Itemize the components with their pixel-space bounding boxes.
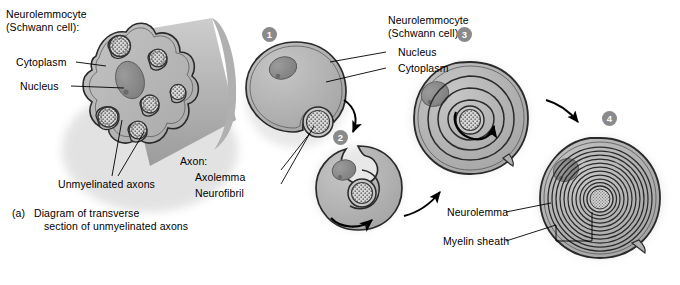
step-2-cell (314, 146, 402, 230)
axon-step-1 (303, 107, 333, 137)
step-badge-1: 1 (262, 27, 277, 42)
myelination-figure: Neurolemmocyte (Schwann cell): Cytoplasm… (0, 0, 680, 285)
step-badge-2: 2 (333, 130, 348, 145)
axon-step-3 (456, 106, 484, 134)
step1-cytoplasm-label: Cytoplasm (398, 62, 449, 75)
step1-cell-title-line2: (Schwann cell): (388, 27, 461, 40)
neurofibril-label: Neurofibril (195, 187, 244, 200)
step-3-cell (412, 62, 528, 174)
panel-a-unmyelinated-axons-label: Unmyelinated axons (58, 178, 155, 191)
step-badge-4: 4 (602, 111, 617, 126)
neurolemma-label: Neurolemma (447, 206, 508, 219)
panel-a-cytoplasm-label: Cytoplasm (16, 56, 67, 69)
arrow-step2-to-step3 (404, 192, 440, 216)
step-badge-3: 3 (457, 27, 472, 42)
panel-a-cell-title-line2: (Schwann cell): (6, 21, 79, 34)
axon-title-label: Axon: (180, 155, 207, 168)
panel-a-caption-line1: Diagram of transverse (34, 207, 139, 220)
axon-step-2 (348, 179, 376, 207)
axon-step-4 (587, 186, 613, 212)
panel-a-caption-line2: section of unmyelinated axons (44, 220, 188, 233)
step1-cell-title-line1: Neurolemmocyte (388, 14, 469, 27)
step1-nucleus-label: Nucleus (398, 46, 437, 59)
arrow-step3-to-step4 (546, 100, 578, 122)
step-4-cell (538, 138, 662, 258)
step-1-cell (246, 42, 346, 148)
panel-a-cell-title-line1: Neurolemmocyte (6, 8, 87, 21)
myelin-sheath-label: Myelin sheath (443, 235, 509, 248)
panel-a-caption-marker: (a) (12, 207, 25, 220)
panel-a-nucleus-label: Nucleus (20, 80, 59, 93)
axolemma-label: Axolemma (195, 171, 245, 184)
